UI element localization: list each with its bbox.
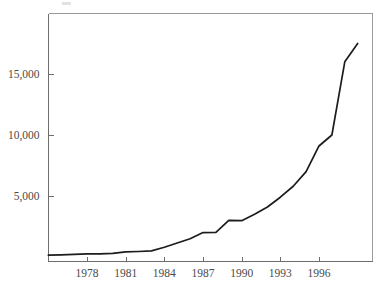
- x-tick-label: 1978: [76, 267, 99, 279]
- plot-frame: [49, 14, 373, 262]
- y-tick-group: 5,00010,00015,000: [8, 68, 54, 203]
- x-tick-label: 1990: [230, 267, 253, 279]
- y-tick-label: 10,000: [8, 129, 40, 142]
- y-tick-label: 15,000: [8, 68, 40, 81]
- data-series-line: [48, 44, 357, 256]
- x-tick-label: 1996: [308, 267, 331, 279]
- x-tick-group: 1978198119841987199019931996: [76, 257, 331, 279]
- x-tick-label: 1987: [192, 267, 215, 279]
- chart-canvas: 5,00010,00015,000 1978198119841987199019…: [0, 0, 386, 287]
- line-chart: 5,00010,00015,000 1978198119841987199019…: [0, 0, 386, 287]
- x-tick-label: 1981: [114, 267, 137, 279]
- y-tick-label: 5,000: [14, 190, 40, 203]
- x-tick-label: 1984: [153, 267, 176, 279]
- x-tick-label: 1993: [269, 267, 292, 279]
- top-edge-artifact: [62, 2, 71, 5]
